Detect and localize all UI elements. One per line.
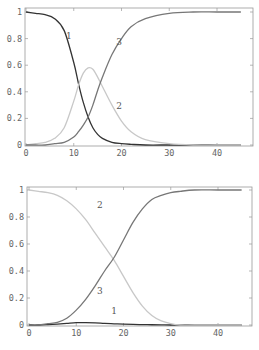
x-tick-label: 30 [164, 148, 174, 158]
y-tick-label: 0.6 [7, 60, 22, 70]
x-tick-label: 40 [213, 328, 223, 338]
curve-label: 2 [116, 101, 122, 111]
x-tick-label: 0 [23, 148, 28, 158]
series-line-2 [29, 190, 242, 325]
x-tick-label: 10 [69, 148, 79, 158]
series-line-1 [26, 12, 241, 145]
series-line-3 [29, 190, 242, 325]
y-tick-label: 0.2 [7, 113, 22, 123]
y-tick-label: 1 [17, 7, 22, 17]
y-tick-label: 0.4 [7, 87, 22, 97]
top-plot: 01020304000.20.40.60.81123 [7, 7, 253, 158]
y-tick-label: 0 [19, 320, 24, 330]
curve-label: 3 [116, 37, 122, 47]
y-tick-label: 1 [19, 185, 24, 195]
bottom-plot: 01020304000.20.40.60.81123 [9, 185, 252, 338]
figure: 01020304000.20.40.60.81123 01020304000.2… [0, 0, 259, 350]
y-tick-label: 0 [17, 140, 22, 150]
x-tick-label: 40 [212, 148, 222, 158]
y-tick-label: 0.6 [9, 239, 24, 249]
x-tick-label: 10 [71, 328, 81, 338]
y-tick-label: 0.8 [7, 34, 22, 44]
series-line-2 [26, 68, 241, 146]
y-tick-label: 0.2 [9, 293, 24, 303]
x-tick-label: 0 [26, 328, 31, 338]
curve-label: 1 [111, 306, 117, 316]
plot-frame [27, 187, 252, 326]
y-tick-label: 0.8 [9, 212, 24, 222]
curve-label: 1 [66, 31, 72, 41]
curve-label: 3 [97, 286, 103, 296]
x-tick-label: 20 [116, 148, 126, 158]
y-tick-label: 0.4 [9, 266, 24, 276]
x-tick-label: 30 [166, 328, 176, 338]
series-line-3 [26, 12, 241, 145]
x-tick-label: 20 [118, 328, 128, 338]
curve-label: 2 [97, 200, 103, 210]
plot-frame [25, 8, 253, 146]
